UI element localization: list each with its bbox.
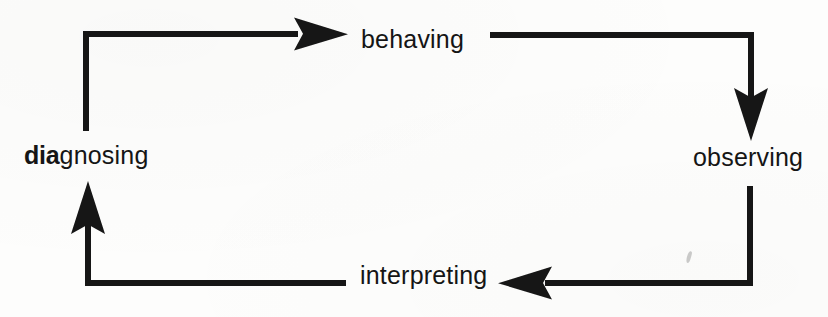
edge-behaving-to-observing-horizontal [490,32,754,38]
node-label-diagnosing-bold-prefix: dia [24,141,60,169]
node-label-diagnosing: diagnosing [24,143,149,168]
arrowhead-left-interpreting [498,267,552,300]
edge-observing-to-interpreting-horizontal [545,280,753,286]
diagram-canvas: behaving observing interpreting diagnosi… [0,0,828,317]
node-label-diagnosing-plain-suffix: gnosing [60,141,149,169]
node-label-interpreting: interpreting [360,263,487,288]
edge-observing-to-interpreting-vertical [747,186,753,286]
node-label-observing: observing [693,145,803,170]
edge-diagnosing-to-behaving [83,18,348,132]
edge-diagnosing-to-behaving-horizontal [83,31,298,37]
edge-behaving-to-observing [490,32,768,141]
node-label-behaving: behaving [361,27,464,52]
edge-observing-to-interpreting [498,186,753,300]
edge-interpreting-to-diagnosing-horizontal [85,280,346,286]
arrowhead-right-behaving [294,18,348,51]
edge-diagnosing-to-behaving-vertical [83,31,89,131]
edge-interpreting-to-diagnosing [71,181,346,286]
